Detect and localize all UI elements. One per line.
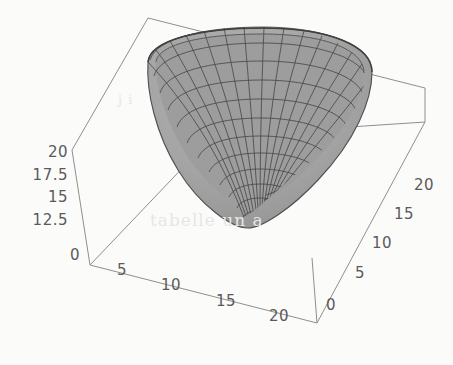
x-tick-label-5: 5 <box>117 261 127 279</box>
figure-canvas: 20 17.5 15 12.5 0 5 10 15 20 20 15 10 5 … <box>0 0 453 365</box>
z-tick-label-20: 20 <box>14 143 68 161</box>
x-tick-label-20: 20 <box>269 307 289 325</box>
x-tick-label-10: 10 <box>161 276 181 294</box>
box-edge-front-vertical <box>312 258 317 323</box>
x-tick-label-15: 15 <box>216 292 236 310</box>
z-tick-label-12-5: 12.5 <box>0 211 68 229</box>
z-tick-label-15: 15 <box>14 188 68 206</box>
y-tick-label-20: 20 <box>414 176 434 194</box>
z-tick-label-17-5: 17.5 <box>0 166 68 184</box>
paraboloid-surface <box>148 27 372 228</box>
y-tick-label-10: 10 <box>372 234 392 252</box>
y-tick-label-15: 15 <box>394 205 414 223</box>
y-tick-label-0: 0 <box>326 296 336 314</box>
x-tick-label-0: 0 <box>70 246 80 264</box>
y-tick-label-5: 5 <box>355 264 365 282</box>
box-edge-top-back-left <box>72 18 148 150</box>
